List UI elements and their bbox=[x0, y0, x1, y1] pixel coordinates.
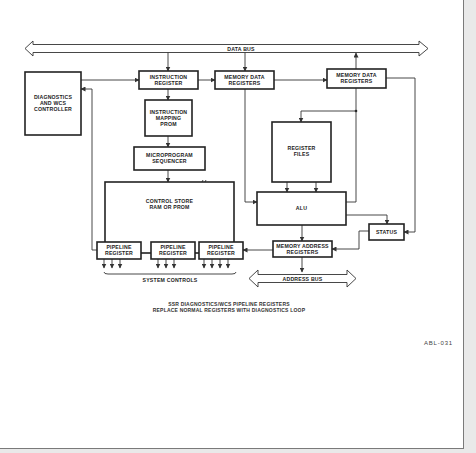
system-control-outputs bbox=[104, 259, 236, 274]
svg-text:SEQUENCER: SEQUENCER bbox=[152, 158, 187, 164]
svg-text:STATUS: STATUS bbox=[376, 229, 398, 235]
system-controls-label: SYSTEM CONTROLS bbox=[143, 277, 198, 283]
data-bus: DATA BUS bbox=[25, 41, 428, 56]
memory-address-registers: MEMORY ADDRESS REGISTERS bbox=[273, 241, 332, 257]
data-bus-label: DATA BUS bbox=[227, 46, 255, 52]
figure-caption: SSR DIAGNOSTICS/WCS PIPELINE REGISTERS R… bbox=[153, 301, 306, 313]
instruction-register: INSTRUCTION REGISTER bbox=[139, 71, 198, 89]
svg-text:ALU: ALU bbox=[296, 205, 307, 211]
pipeline-register-1: PIPELINE REGISTER bbox=[97, 242, 141, 259]
memory-data-registers-2: MEMORY DATA REGISTERS bbox=[327, 69, 386, 88]
svg-text:CONTROLLER: CONTROLLER bbox=[34, 106, 72, 112]
block-diagram: DATA BUS bbox=[0, 0, 476, 453]
status-register: STATUS bbox=[369, 224, 404, 240]
svg-text:REGISTERS: REGISTERS bbox=[287, 249, 319, 255]
address-bus-label: ADDRESS BUS bbox=[283, 276, 323, 282]
pipeline-register-2: PIPELINE REGISTER bbox=[151, 242, 195, 259]
svg-text:FILES: FILES bbox=[294, 151, 310, 157]
svg-text:REGISTER: REGISTER bbox=[154, 80, 182, 86]
svg-text:REGISTER: REGISTER bbox=[159, 250, 187, 256]
alu: ALU bbox=[257, 192, 346, 225]
svg-text:RAM OR PROM: RAM OR PROM bbox=[149, 204, 189, 210]
instruction-mapping-prom: INSTRUCTION MAPPING PROM bbox=[145, 100, 192, 136]
svg-text:PROM: PROM bbox=[160, 121, 176, 127]
pipeline-register-3: PIPELINE REGISTER bbox=[199, 242, 243, 259]
svg-text:REGISTERS: REGISTERS bbox=[341, 78, 373, 84]
svg-text:REGISTER: REGISTER bbox=[207, 250, 235, 256]
register-files: REGISTER FILES bbox=[272, 122, 331, 182]
svg-text:REGISTER: REGISTER bbox=[105, 250, 133, 256]
memory-data-registers-1: MEMORY DATA REGISTERS bbox=[215, 71, 274, 89]
svg-text:REGISTERS: REGISTERS bbox=[229, 80, 261, 86]
microprogram-sequencer: MICROPROGRAM SEQUENCER bbox=[134, 147, 205, 170]
figure-reference: ABL-031 bbox=[424, 340, 453, 346]
svg-text:REPLACE NORMAL REGISTERS WITH: REPLACE NORMAL REGISTERS WITH DIAGNOSTIC… bbox=[153, 307, 306, 313]
diagnostics-wcs-controller: DIAGNOSTICS AND WCS CONTROLLER bbox=[25, 72, 81, 135]
address-bus: ADDRESS BUS bbox=[249, 270, 356, 287]
